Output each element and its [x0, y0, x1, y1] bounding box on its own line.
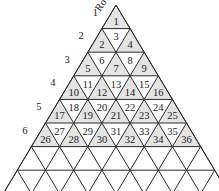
edge [144, 147, 158, 171]
edge [88, 147, 102, 171]
cell-number: 35 [167, 126, 178, 137]
cell-number: 31 [111, 126, 122, 137]
edge [60, 170, 74, 191]
cell-number: 19 [83, 110, 94, 121]
cell-number: 23 [139, 110, 150, 121]
edge [158, 170, 172, 191]
cell-number: 8 [127, 55, 132, 66]
cell-number: 25 [167, 110, 178, 121]
cell-number: 10 [68, 87, 79, 98]
cell-number: 6 [99, 55, 104, 66]
cell-number: 22 [125, 102, 136, 113]
cell-number: 2 [99, 39, 104, 50]
edge [17, 170, 31, 191]
edge [74, 147, 88, 171]
edge [158, 147, 172, 171]
cell-number: 36 [181, 134, 192, 145]
cell-number: 13 [111, 79, 122, 90]
cell-number: 17 [54, 110, 65, 121]
edge [17, 147, 31, 171]
edge [130, 170, 144, 191]
edge [172, 170, 186, 191]
edge [3, 170, 17, 191]
cell-number: 18 [68, 102, 79, 113]
row-number: 2 [79, 30, 84, 41]
cell-labels: 1234567891011121314151617181920212223242… [40, 16, 192, 145]
edge [46, 147, 60, 171]
edge [201, 170, 215, 191]
row-number: 3 [64, 54, 69, 65]
cell-number: 7 [113, 63, 118, 74]
edge [187, 147, 201, 171]
cell-number: 26 [40, 134, 51, 145]
row-number: 5 [36, 101, 41, 112]
cell-number: 34 [153, 134, 164, 145]
cell-number: 12 [97, 87, 108, 98]
edge [187, 170, 201, 191]
cell-number: 15 [139, 79, 150, 90]
cell-number: 20 [97, 102, 108, 113]
cell-number: 3 [113, 31, 118, 42]
cell-number: 4 [127, 39, 133, 50]
edge [116, 170, 130, 191]
cell-number: 29 [83, 126, 94, 137]
edge [201, 147, 215, 171]
cell-number: 9 [142, 63, 147, 74]
edge [144, 170, 158, 191]
cell-number: 33 [139, 126, 150, 137]
cell-number: 1 [113, 16, 118, 27]
row-number: 6 [22, 125, 27, 136]
cell-number: 14 [125, 87, 136, 98]
cell-number: 24 [153, 102, 164, 113]
cell-number: 11 [83, 79, 93, 90]
edge [74, 170, 88, 191]
row-number: 4 [50, 77, 56, 88]
edge [31, 170, 45, 191]
cell-number: 21 [111, 110, 122, 121]
edge [88, 170, 102, 191]
edge [46, 170, 60, 191]
cell-number: 27 [54, 126, 65, 137]
cell-number: 32 [125, 134, 136, 145]
edge [116, 147, 130, 171]
edge [215, 170, 219, 191]
triangular-grid: 1234567891011121314151617181920212223242… [0, 0, 219, 191]
edge [60, 147, 74, 171]
cell-number: 28 [68, 134, 79, 145]
cell-number: 30 [97, 134, 108, 145]
cell-number: 5 [85, 63, 90, 74]
edge [130, 147, 144, 171]
edge [102, 170, 116, 191]
edge [102, 147, 116, 171]
edge [172, 147, 186, 171]
cell-number: 16 [153, 87, 164, 98]
edge [31, 147, 45, 171]
